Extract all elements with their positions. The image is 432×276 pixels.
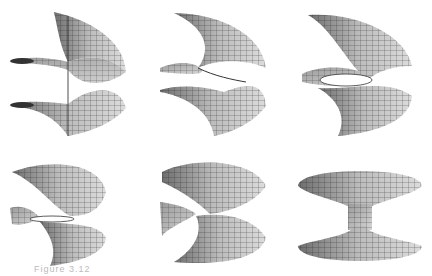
catenoid-surface-icon	[288, 140, 432, 276]
intermediate-surface-2-icon	[288, 0, 432, 136]
helicoid-surface-icon	[0, 0, 144, 136]
panel-intermediate-2	[288, 0, 432, 136]
panel-intermediate-4	[144, 140, 288, 276]
figure-caption: Figure 3.12	[34, 264, 91, 274]
intermediate-surface-1-icon	[144, 0, 288, 136]
intermediate-surface-4-icon	[144, 140, 288, 276]
panel-helicoid	[0, 0, 144, 136]
panel-intermediate-1	[144, 0, 288, 136]
intermediate-surface-3-icon	[0, 140, 144, 276]
panel-catenoid	[288, 140, 432, 276]
panel-intermediate-3	[0, 140, 144, 276]
